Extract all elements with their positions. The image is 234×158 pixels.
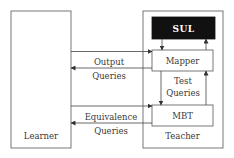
equivalence-queries-label-line1: Equivalence bbox=[85, 112, 138, 122]
output-queries-label-line1: Output bbox=[94, 57, 125, 67]
mapper-node: Mapper bbox=[152, 50, 213, 71]
learning-setup-diagram: Learner Teacher SUL Mapper MBT Output Qu… bbox=[0, 0, 234, 158]
output-queries-label-line2: Queries bbox=[92, 71, 126, 81]
sul-node: SUL bbox=[152, 17, 215, 39]
learner-node: Learner bbox=[11, 11, 71, 148]
mbt-node: MBT bbox=[152, 105, 213, 126]
test-queries-label-line1: Test bbox=[174, 76, 192, 86]
teacher-label: Teacher bbox=[165, 131, 200, 141]
learner-label: Learner bbox=[24, 131, 59, 141]
test-queries-label-line2: Queries bbox=[166, 88, 200, 98]
mbt-label: MBT bbox=[172, 111, 193, 121]
equivalence-queries-label-line2: Queries bbox=[94, 126, 128, 136]
sul-label: SUL bbox=[172, 24, 194, 34]
mapper-label: Mapper bbox=[166, 56, 201, 66]
